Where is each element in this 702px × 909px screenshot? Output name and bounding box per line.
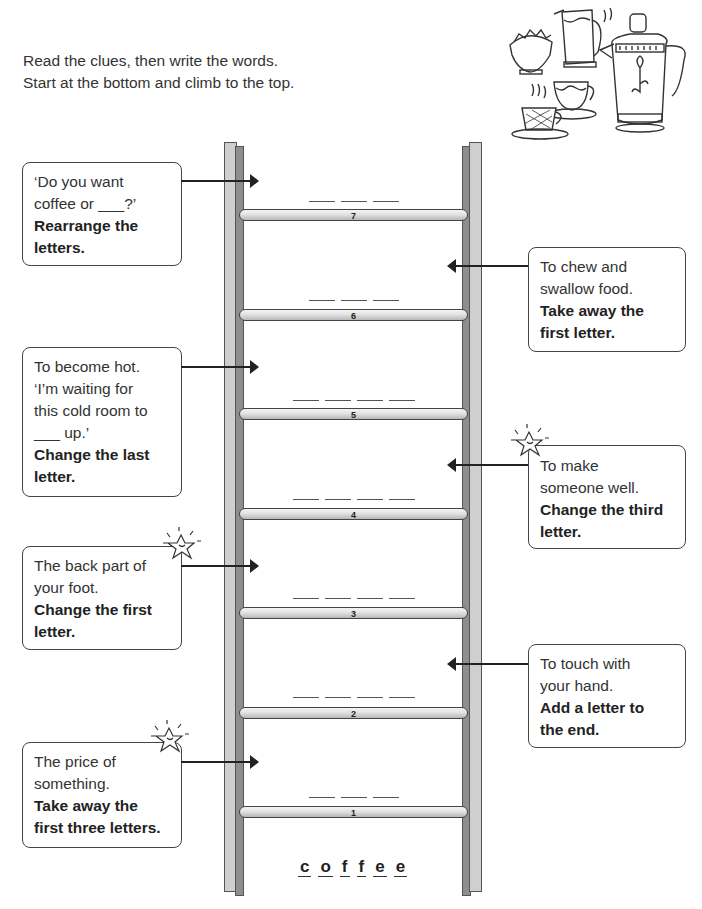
clue-rule: first three letters.	[34, 817, 170, 839]
clue-text: To touch with	[540, 653, 674, 675]
clue-box-7: ‘Do you want coffee or ___?’ Rearrange t…	[22, 162, 182, 266]
arrow-right-icon	[181, 761, 251, 763]
instruction-line-2: Start at the bottom and climb to the top…	[23, 72, 294, 94]
clue-text: ‘I’m waiting for	[34, 378, 170, 400]
answer-blanks-4[interactable]	[293, 498, 415, 500]
rung-2: 2	[239, 707, 468, 719]
rung-7: 7	[239, 209, 468, 221]
start-letter: c	[298, 858, 311, 877]
rung-6: 6	[239, 309, 468, 321]
clue-rule: letter.	[540, 521, 674, 543]
start-letter: e	[373, 858, 386, 877]
answer-blanks-1[interactable]	[309, 796, 399, 798]
start-letter: f	[340, 858, 350, 877]
arrow-left-icon	[455, 663, 528, 665]
clue-box-2: To touch with your hand. Add a letter to…	[528, 644, 686, 748]
clue-text: ‘Do you want	[34, 171, 170, 193]
clue-text: swallow food.	[540, 278, 674, 300]
star-icon	[505, 422, 555, 462]
clue-rule: letters.	[34, 237, 170, 259]
clue-rule: letter.	[34, 621, 170, 643]
clue-text: To make	[540, 455, 674, 477]
clue-rule: Take away the	[34, 795, 170, 817]
clue-rule: Change the third	[540, 499, 674, 521]
arrow-right-icon	[181, 366, 251, 368]
clue-rule: Rearrange the	[34, 215, 170, 237]
clue-text: this cold room to	[34, 400, 170, 422]
rung-1: 1	[239, 806, 468, 818]
instruction-line-1: Read the clues, then write the words.	[23, 50, 294, 72]
clue-rule: the end.	[540, 719, 674, 741]
clue-box-6: To chew and swallow food. Take away the …	[528, 247, 686, 352]
clue-box-5: To become hot. ‘I’m waiting for this col…	[22, 347, 182, 497]
star-icon	[145, 718, 195, 758]
rung-5: 5	[239, 408, 468, 420]
clue-rule: first letter.	[540, 322, 674, 344]
clue-rule: Change the first	[34, 599, 170, 621]
coffee-set-icon	[480, 0, 702, 140]
clue-text: ___ up.’	[34, 422, 170, 444]
arrow-left-icon	[455, 464, 528, 466]
rung-4: 4	[239, 508, 468, 520]
clue-text: your foot.	[34, 577, 170, 599]
clue-text: your hand.	[540, 675, 674, 697]
arrow-right-icon	[181, 565, 251, 567]
start-letter: f	[357, 858, 367, 877]
clue-text: someone well.	[540, 477, 674, 499]
arrow-left-icon	[455, 265, 528, 267]
answer-blanks-6[interactable]	[309, 299, 399, 301]
rung-3: 3	[239, 607, 468, 619]
answer-blanks-7[interactable]	[309, 200, 399, 202]
start-word: c o f f e e	[298, 858, 407, 877]
instructions: Read the clues, then write the words. St…	[23, 50, 294, 94]
answer-blanks-5[interactable]	[293, 399, 415, 401]
answer-blanks-2[interactable]	[293, 696, 415, 698]
clue-rule: letter.	[34, 466, 170, 488]
star-icon	[157, 525, 207, 565]
start-letter: e	[394, 858, 407, 877]
clue-rule: Add a letter to	[540, 697, 674, 719]
clue-text: To become hot.	[34, 356, 170, 378]
start-letter: o	[318, 858, 332, 877]
arrow-right-icon	[181, 180, 251, 182]
answer-blanks-3[interactable]	[293, 597, 415, 599]
clue-rule: Change the last	[34, 444, 170, 466]
clue-text: coffee or ___?’	[34, 193, 170, 215]
clue-text: The back part of	[34, 555, 170, 577]
clue-text: To chew and	[540, 256, 674, 278]
clue-text: something.	[34, 773, 170, 795]
clue-rule: Take away the	[540, 300, 674, 322]
